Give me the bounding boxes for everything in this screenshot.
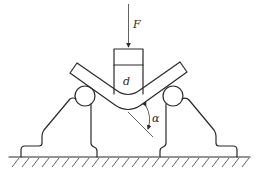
force-label: F — [133, 19, 141, 30]
diagram-canvas: F d α — [0, 0, 260, 177]
angle-indicator — [128, 106, 153, 137]
left-roller — [75, 86, 95, 106]
left-support — [21, 98, 97, 157]
ground — [9, 157, 250, 167]
right-support — [160, 98, 237, 157]
punch-label: d — [123, 76, 130, 87]
bending-diagram — [0, 0, 260, 177]
right-roller — [163, 86, 183, 106]
angle-label: α — [152, 113, 159, 124]
